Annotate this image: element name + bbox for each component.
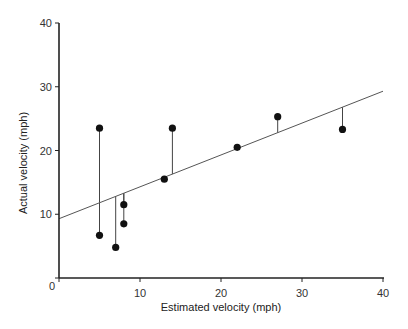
y-tick-label: 30 bbox=[40, 81, 52, 93]
data-point bbox=[96, 232, 103, 239]
data-points bbox=[96, 113, 346, 251]
y-tick-label: 40 bbox=[40, 17, 52, 29]
data-point bbox=[274, 113, 281, 120]
y-tick-label: 20 bbox=[40, 145, 52, 157]
data-point bbox=[112, 244, 119, 251]
data-point bbox=[339, 126, 346, 133]
scatter-chart: 10203040 10203040 0 Estimated velocity (… bbox=[0, 0, 408, 329]
x-tick-label: 10 bbox=[134, 287, 146, 299]
data-point bbox=[96, 125, 103, 132]
regression-line bbox=[59, 91, 383, 218]
data-point bbox=[169, 125, 176, 132]
data-point bbox=[120, 220, 127, 227]
y-tick-label: 10 bbox=[40, 208, 52, 220]
y-axis-ticks: 10203040 bbox=[40, 17, 59, 278]
origin-label: 0 bbox=[49, 280, 55, 292]
data-point bbox=[161, 176, 168, 183]
y-axis-label: Actual velocity (mph) bbox=[17, 112, 29, 214]
x-tick-label: 40 bbox=[377, 287, 389, 299]
data-point bbox=[120, 201, 127, 208]
data-point bbox=[234, 144, 241, 151]
x-axis-label: Estimated velocity (mph) bbox=[161, 301, 281, 313]
residual-lines bbox=[100, 107, 343, 247]
x-tick-label: 20 bbox=[215, 287, 227, 299]
x-axis-ticks: 10203040 bbox=[59, 278, 389, 299]
x-tick-label: 30 bbox=[296, 287, 308, 299]
